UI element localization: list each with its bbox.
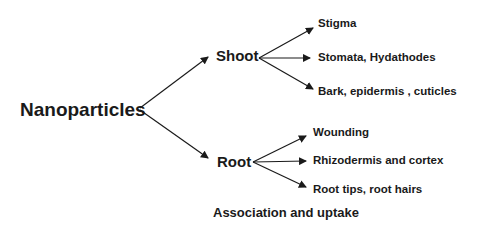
node-root: Root [217,154,251,169]
arrow-nanoparticles-to-root [140,110,208,158]
arrow-shoot-to-stigma [259,28,313,58]
arrow-root-to-root-tips [253,162,306,187]
arrow-shoot-to-bark [259,58,313,89]
diagram-caption: Association and uptake [213,206,359,219]
arrow-root-to-rhizodermis [253,161,306,162]
arrow-nanoparticles-to-shoot [140,57,208,108]
node-nanoparticles: Nanoparticles [20,100,146,119]
leaf-rhizodermis-cortex: Rhizodermis and cortex [313,155,443,167]
arrow-root-to-wounding [253,136,306,162]
leaf-stomata-hydathodes: Stomata, Hydathodes [318,52,436,64]
leaf-bark-epidermis-cuticles: Bark, epidermis , cuticles [318,86,457,98]
leaf-wounding: Wounding [313,127,369,139]
leaf-root-tips-hairs: Root tips, root hairs [313,184,422,196]
node-shoot: Shoot [216,48,259,63]
leaf-stigma: Stigma [318,18,356,30]
